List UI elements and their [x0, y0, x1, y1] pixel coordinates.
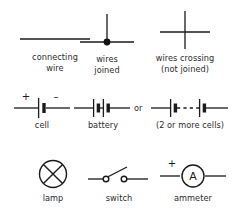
caption-line: wires [94, 54, 119, 65]
connector-label-or: or [134, 103, 142, 113]
caption-battery: battery [88, 120, 118, 131]
caption-lamp: lamp [43, 193, 64, 204]
battery-icon [72, 88, 134, 118]
ammeter-icon: A + [156, 152, 230, 192]
caption-wires-joined: wires joined [94, 54, 119, 75]
caption-line: joined [94, 65, 119, 76]
cell-negative-marker: – [54, 91, 59, 102]
caption-line: battery [88, 120, 118, 131]
caption-switch: switch [106, 193, 132, 204]
ammeter-positive-marker: + [168, 158, 176, 169]
symbol-group-wires-crossing: wires crossing (not joined) [138, 8, 232, 74]
symbol-group-cell: + – cell [6, 88, 78, 131]
caption-line: switch [106, 193, 132, 204]
wires-joined-icon [72, 12, 142, 52]
wires-crossing-icon [152, 8, 218, 52]
cell-positive-marker: + [22, 91, 30, 102]
symbol-group-battery: battery [70, 88, 136, 131]
caption-line: cell [35, 120, 49, 131]
ammeter-inner-letter: A [189, 170, 197, 183]
caption-ammeter: ammeter [174, 193, 212, 204]
caption-wires-crossing: wires crossing (not joined) [156, 53, 215, 74]
caption-line: ammeter [174, 193, 212, 204]
switch-icon [86, 156, 152, 192]
cell-icon: + – [10, 88, 74, 118]
caption-multi-cells: (2 or more cells) [156, 120, 224, 131]
circuit-symbols-diagram: connecting wire wires joined wires cross… [0, 0, 235, 220]
caption-cell: cell [35, 120, 49, 131]
lamp-icon [33, 156, 73, 192]
caption-line: lamp [43, 193, 64, 204]
symbol-group-multi-cells: (2 or more cells) [146, 88, 234, 131]
caption-line: (not joined) [156, 64, 215, 75]
caption-line: (2 or more cells) [156, 120, 224, 131]
caption-line: wires crossing [156, 53, 215, 64]
symbol-group-ammeter: A + ammeter [152, 152, 234, 204]
symbol-group-switch: switch [82, 156, 156, 204]
multi-cells-icon [148, 88, 232, 118]
